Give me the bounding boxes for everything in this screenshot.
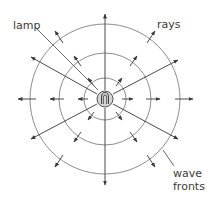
lamp [97,91,113,107]
label-wave: wave [173,167,202,180]
ray-lower-right [113,104,178,139]
wavefront-diagram: lamp rays wave fronts [0,0,207,201]
ray-lower-left [31,104,97,139]
arrow-ll-3 [55,155,63,167]
arrow-lr-3 [147,155,155,167]
label-lamp: lamp [13,19,41,32]
wavefronts-leader-line [163,150,174,166]
arrow-ul-3 [55,31,63,43]
label-rays: rays [157,18,181,31]
ray-upper-right [113,60,178,94]
arrow-ur-3 [147,31,155,43]
label-fronts: fronts [173,180,205,193]
ray-upper-left [31,57,97,94]
lamp-bulb [97,91,113,107]
lamp-leader-line [37,29,98,90]
